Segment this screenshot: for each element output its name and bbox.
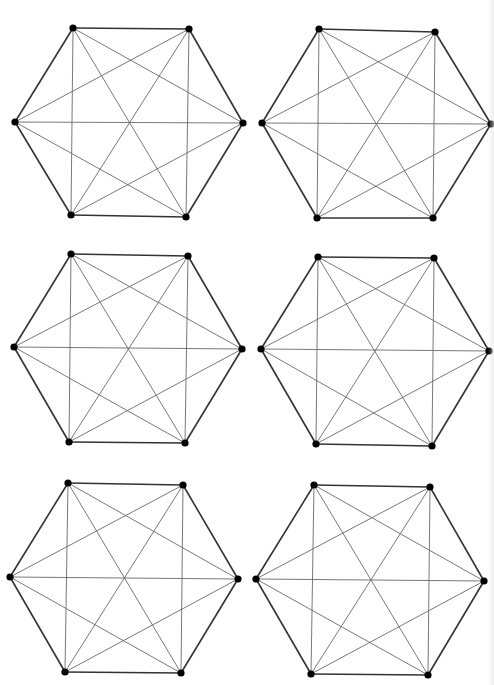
vertex-dot — [10, 343, 17, 350]
vertex-dot — [424, 671, 431, 678]
diagonal-edge — [262, 123, 491, 124]
vertex-dot — [238, 345, 245, 352]
perimeter-edge — [73, 28, 189, 29]
vertex-dot — [67, 211, 74, 218]
diagonal-edge — [69, 256, 188, 442]
perimeter-edge — [68, 483, 183, 485]
diagonal-edge — [433, 32, 435, 218]
k6-graph-panel-5 — [6, 479, 241, 676]
perimeter-edge — [14, 347, 69, 442]
perimeter-edge — [256, 579, 311, 674]
vertex-dot — [6, 573, 13, 580]
diagonal-edge — [69, 254, 71, 442]
diagonal-edge — [68, 483, 238, 579]
vertex-dot — [314, 253, 321, 260]
diagonal-edge — [314, 485, 484, 581]
vertex-dot — [181, 439, 188, 446]
diagonal-edge — [317, 32, 435, 218]
k6-graph-panel-3 — [10, 250, 245, 446]
perimeter-edge — [181, 579, 238, 673]
perimeter-edge — [14, 254, 71, 347]
vertex-dot — [431, 28, 438, 35]
diagonal-edge — [15, 122, 243, 123]
vertex-dot — [258, 119, 265, 126]
vertex-dot — [182, 213, 189, 220]
vertex-dot — [426, 483, 433, 490]
perimeter-edge — [261, 257, 318, 349]
diagonal-edge — [319, 29, 491, 124]
diagonal-edge — [15, 122, 186, 217]
vertex-dot — [307, 670, 314, 677]
vertex-dot — [179, 481, 186, 488]
perimeter-edge — [432, 351, 489, 446]
diagonal-edge — [316, 258, 434, 444]
diagonal-edge — [316, 351, 489, 444]
diagonal-edge — [256, 579, 428, 675]
perimeter-edge — [311, 674, 428, 675]
vertex-dot — [64, 479, 71, 486]
vertex-dot — [480, 577, 487, 584]
diagonal-edge — [428, 487, 430, 675]
perimeter-edge — [430, 487, 484, 581]
perimeter-edge — [256, 485, 314, 579]
vertex-dot — [234, 575, 241, 582]
vertex-dot — [61, 668, 68, 675]
diagonal-edge — [14, 256, 188, 347]
vertex-dot — [65, 438, 72, 445]
perimeter-edge — [434, 258, 489, 351]
vertex-dot — [239, 119, 246, 126]
diagonal-edge — [65, 579, 238, 672]
vertex-dot — [177, 669, 184, 676]
vertex-dot — [252, 575, 259, 582]
perimeter-edge — [433, 124, 491, 218]
vertex-dot — [487, 120, 494, 127]
diagonal-edge — [14, 347, 185, 443]
perimeter-edge — [428, 581, 484, 675]
vertex-dot — [11, 118, 18, 125]
vertex-dot — [184, 252, 191, 259]
diagonal-edge — [261, 349, 432, 446]
k6-graph-panel-2 — [258, 25, 494, 221]
perimeter-edge — [15, 28, 73, 122]
vertex-dot — [428, 442, 435, 449]
perimeter-edge — [65, 672, 181, 673]
vertex-dot — [69, 24, 76, 31]
perimeter-edge — [10, 577, 65, 672]
k6-diagram-grid — [0, 0, 494, 685]
diagonal-edge — [432, 258, 434, 446]
diagonal-edge — [185, 256, 188, 443]
k6-graph-panel-4 — [257, 253, 492, 449]
perimeter-edge — [316, 444, 432, 446]
vertex-dot — [313, 214, 320, 221]
perimeter-edge — [262, 123, 317, 218]
perimeter-edge — [319, 29, 435, 32]
perimeter-edge — [71, 254, 188, 256]
k6-graph-panel-1 — [11, 24, 246, 220]
perimeter-edge — [186, 123, 243, 217]
diagonal-edge — [181, 485, 183, 673]
diagonal-edge — [318, 257, 489, 351]
perimeter-edge — [183, 485, 238, 579]
vertex-dot — [429, 214, 436, 221]
diagonal-edge — [71, 28, 73, 215]
diagonal-edge — [316, 257, 318, 444]
perimeter-edge — [318, 257, 434, 258]
diagonal-edge — [10, 577, 181, 673]
vertex-dot — [67, 250, 74, 257]
perimeter-edge — [261, 349, 316, 444]
diagonal-edge — [256, 487, 430, 579]
perimeter-edge — [10, 483, 68, 577]
perimeter-edge — [314, 485, 430, 487]
perimeter-edge — [188, 256, 242, 349]
diagonal-edge — [317, 124, 491, 218]
diagonal-edge — [73, 28, 243, 123]
diagonal-edge — [311, 581, 484, 674]
k6-graph-panel-6 — [252, 481, 487, 678]
perimeter-edge — [189, 29, 243, 123]
diagonal-edge — [15, 29, 189, 122]
perimeter-edge — [185, 349, 242, 443]
vertex-dot — [310, 481, 317, 488]
vertex-dot — [315, 25, 322, 32]
perimeter-edge — [71, 215, 186, 217]
diagonal-edge — [261, 258, 434, 349]
